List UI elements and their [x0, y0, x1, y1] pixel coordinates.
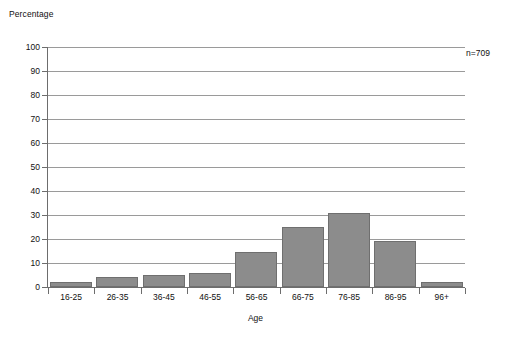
bar-slot	[419, 47, 465, 287]
x-axis-title: Age	[0, 313, 511, 323]
y-axis-tick-label: 20	[2, 235, 40, 243]
y-axis-tick-label: 0	[2, 283, 40, 291]
bar	[282, 227, 324, 287]
bar-slot	[141, 47, 187, 287]
x-axis-tick-label: 96+	[412, 292, 472, 302]
bar-slot	[326, 47, 372, 287]
bar	[374, 241, 416, 287]
bar-slot	[233, 47, 279, 287]
bar-slot	[187, 47, 233, 287]
y-axis-tick-label: 80	[2, 91, 40, 99]
bar-slot	[280, 47, 326, 287]
y-axis-tick-label: 50	[2, 163, 40, 171]
bar	[421, 282, 463, 287]
y-axis-tick-label: 70	[2, 115, 40, 123]
bar	[96, 277, 138, 287]
bar-slot	[48, 47, 94, 287]
bar	[50, 282, 92, 287]
y-axis-tick-label: 100	[2, 43, 40, 51]
bar-chart: Percentage 1009080706050403020100 16-252…	[0, 0, 511, 342]
bar-series	[48, 47, 465, 287]
bar	[328, 213, 370, 287]
bar-slot	[94, 47, 140, 287]
y-axis-tick-label: 60	[2, 139, 40, 147]
y-axis-tick-label: 10	[2, 259, 40, 267]
y-axis-tick-label: 40	[2, 187, 40, 195]
gridline	[48, 287, 465, 288]
bar-slot	[372, 47, 418, 287]
bar	[235, 252, 277, 287]
bar	[143, 275, 185, 287]
bar	[189, 273, 231, 287]
y-axis-tick-label: 30	[2, 211, 40, 219]
y-axis-tick-label: 90	[2, 67, 40, 75]
sample-size-annotation: n=709	[466, 48, 490, 58]
y-axis-tick-labels: 1009080706050403020100	[0, 0, 40, 342]
